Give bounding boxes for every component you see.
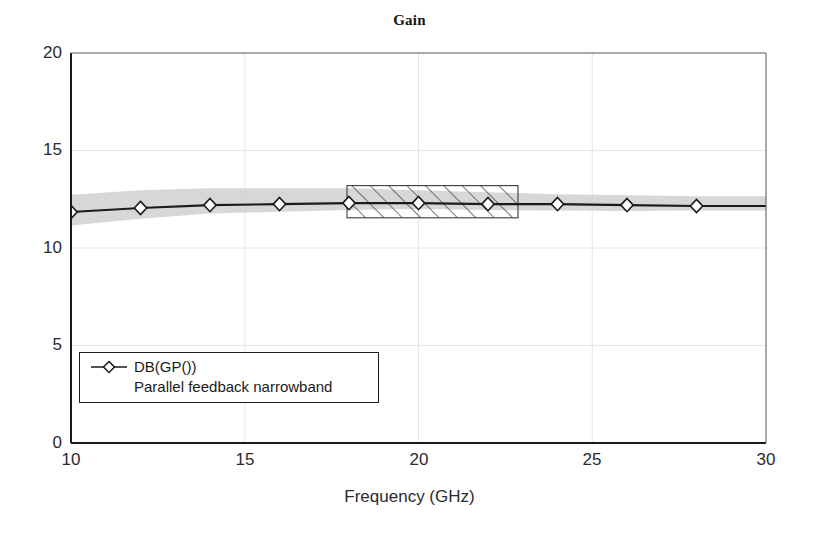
x-axis-label: Frequency (GHz): [0, 487, 819, 507]
gain-chart: Gain: [0, 0, 819, 537]
legend-label: DB(GP()): [134, 358, 197, 375]
x-tick-15: 15: [215, 450, 275, 470]
x-tick-20: 20: [389, 450, 449, 470]
y-tick-10: 10: [22, 238, 62, 258]
y-tick-20: 20: [22, 43, 62, 63]
y-tick-5: 5: [22, 335, 62, 355]
y-tick-15: 15: [22, 140, 62, 160]
legend[interactable]: DB(GP()) Parallel feedback narrowband: [79, 352, 379, 403]
diamond-marker-icon: [90, 360, 128, 374]
legend-sublabel: Parallel feedback narrowband: [134, 378, 332, 395]
x-tick-10: 10: [41, 450, 101, 470]
x-tick-30: 30: [736, 450, 796, 470]
x-tick-25: 25: [562, 450, 622, 470]
legend-entry-0[interactable]: DB(GP()): [90, 358, 197, 375]
